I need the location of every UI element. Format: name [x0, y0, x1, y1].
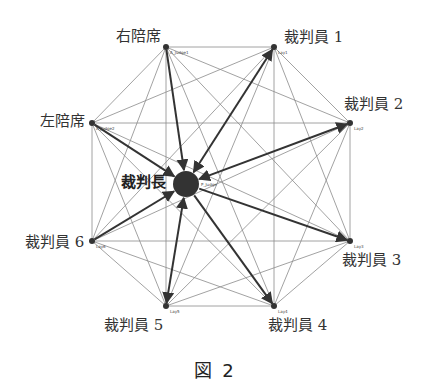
node-Lay6 [89, 238, 95, 244]
node-label-Lay4: 裁判員 4 [268, 318, 327, 333]
node-Lay5 [163, 303, 169, 309]
node-label-A_Judge1: 右陪席 [116, 29, 161, 44]
node-Lay4 [271, 303, 277, 309]
thin-edge [166, 241, 350, 306]
center-label-judge: 裁判長 [121, 175, 166, 190]
thin-edge [274, 47, 350, 241]
thin-edge [274, 241, 350, 306]
thick-edge-Lay6-Judge [95, 191, 174, 239]
node-small-label: A_Judge1 [170, 50, 189, 55]
node-label-Lay5: 裁判員 5 [104, 318, 163, 333]
network-diagram: A_Judge1Lay1A_Judge2Lay2Lay6Lay3Lay5Lay4… [0, 0, 430, 391]
node-A_Judge2 [89, 120, 95, 126]
thin-edge [92, 47, 274, 241]
thin-edge [166, 123, 350, 306]
center-small-label: P_Judge [201, 182, 217, 187]
node-small-label: Lay3 [354, 244, 364, 249]
thin-edge [92, 241, 274, 306]
thin-edge [92, 241, 166, 306]
node-label-Lay1: 裁判員 1 [284, 30, 343, 45]
thin-edge [274, 47, 350, 123]
node-Lay2 [347, 120, 353, 126]
node-small-label: Lay5 [170, 309, 180, 314]
node-small-label: Lay4 [278, 309, 288, 314]
thin-edge [92, 123, 274, 306]
node-small-label: Lay1 [278, 50, 288, 55]
thick-edge-Judge-Lay1 [194, 50, 273, 173]
node-label-A_Judge2: 左陪席 [40, 114, 85, 129]
node-label-Lay2: 裁判員 2 [344, 97, 403, 112]
thick-edge-Judge-Lay2 [199, 124, 347, 179]
thick-edge-Judge-Lay5 [166, 198, 183, 303]
node-label-Lay6: 裁判員 6 [25, 235, 84, 250]
thick-edge-A_Judge2-Judge [95, 125, 175, 177]
thin-edge [166, 47, 350, 241]
thin-edge [92, 123, 166, 306]
figure-caption: 図 2 [0, 356, 430, 382]
node-small-label: Lay2 [354, 126, 364, 131]
node-Lay3 [347, 238, 353, 244]
node-label-Lay3: 裁判員 3 [342, 253, 401, 268]
node-small-label: Lay6 [96, 244, 106, 249]
node-A_Judge1 [163, 44, 169, 50]
thin-edge [92, 47, 166, 123]
thin-edge [274, 123, 350, 306]
node-Lay1 [271, 44, 277, 50]
node-small-label: A_Judge2 [96, 126, 115, 131]
center-node-judge [173, 171, 199, 197]
